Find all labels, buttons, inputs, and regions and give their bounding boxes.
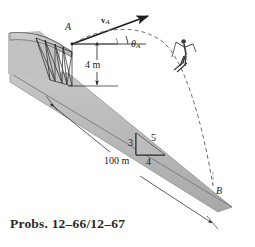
slope-surface — [10, 73, 232, 212]
figure-caption: Probs. 12–66/12–67 — [10, 216, 125, 232]
slope-length-label: 100 m — [104, 156, 129, 166]
figure-root: A vA θA 4 m 3 4 5 100 m B Probs. 12–66/1… — [0, 0, 255, 247]
figure-drawing — [0, 0, 255, 247]
point-a-label: A — [65, 22, 71, 32]
triangle-hypotenuse-label: 5 — [151, 133, 156, 143]
triangle-horizontal-label: 4 — [146, 157, 151, 167]
triangle-vertical-label: 3 — [128, 138, 133, 148]
velocity-vector-label: vA — [101, 10, 110, 26]
point-b-label: B — [216, 186, 222, 196]
skier-icon — [172, 39, 196, 72]
launch-angle-label: θA — [131, 39, 140, 50]
height-dimension-label: 4 m — [85, 60, 100, 70]
